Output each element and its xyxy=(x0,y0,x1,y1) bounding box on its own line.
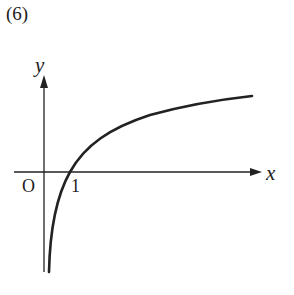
tick-label-1: 1 xyxy=(71,176,80,196)
origin-label: O xyxy=(22,176,35,196)
y-axis xyxy=(40,75,48,272)
x-axis xyxy=(14,168,262,176)
graph: y x O 1 xyxy=(0,0,294,295)
x-axis-label: x xyxy=(265,161,276,185)
y-axis-label: y xyxy=(33,53,45,77)
